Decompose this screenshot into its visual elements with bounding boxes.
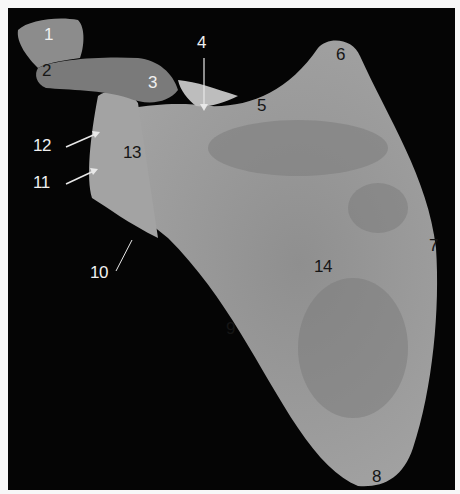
label-3: 3	[148, 74, 157, 91]
label-6: 6	[336, 46, 345, 63]
label-9: 9	[226, 320, 235, 337]
label-1: 1	[44, 26, 53, 43]
label-8: 8	[372, 468, 381, 485]
label-5: 5	[257, 97, 266, 114]
label-12: 12	[33, 137, 51, 154]
scapula-image	[8, 8, 455, 490]
label-4: 4	[197, 34, 206, 51]
label-14: 14	[314, 258, 332, 275]
label-10: 10	[90, 264, 108, 281]
figure-frame: 1 2 3 4 5 6 7 8 9 10 11 12 13 14	[8, 8, 455, 490]
label-13: 13	[123, 144, 141, 161]
label-2: 2	[42, 62, 51, 79]
label-11: 11	[33, 174, 50, 191]
label-7: 7	[429, 237, 438, 254]
